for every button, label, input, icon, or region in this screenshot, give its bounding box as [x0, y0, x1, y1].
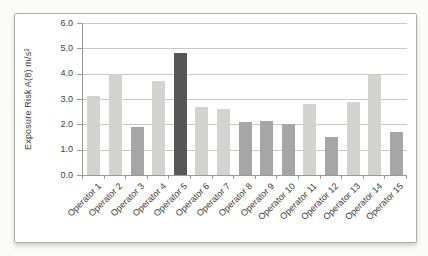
y-tick-label: 4.0	[47, 68, 73, 79]
bar-operator-2	[109, 74, 122, 175]
x-tick-mark	[341, 175, 342, 179]
bar-operator-15	[390, 132, 403, 175]
x-tick-mark	[104, 175, 105, 179]
y-tick-label: 3.0	[47, 94, 73, 105]
bar-operator-8	[239, 122, 252, 175]
y-tick-label: 1.0	[47, 144, 73, 155]
gridline	[83, 23, 407, 24]
bar-operator-7	[217, 109, 230, 175]
bar-operator-5	[174, 53, 187, 175]
x-tick-mark	[255, 175, 256, 179]
x-tick-mark	[212, 175, 213, 179]
y-tick-label: 2.0	[47, 119, 73, 130]
bar-operator-9	[260, 121, 273, 175]
x-tick-mark	[384, 175, 385, 179]
x-tick-mark	[125, 175, 126, 179]
bar-operator-1	[87, 96, 100, 175]
x-tick-mark	[190, 175, 191, 179]
x-tick-mark	[363, 175, 364, 179]
plot-area	[82, 23, 407, 176]
gridline	[83, 99, 407, 100]
gridline	[83, 48, 407, 49]
bar-operator-3	[131, 127, 144, 175]
x-tick-mark	[147, 175, 148, 179]
bar-operator-12	[325, 137, 338, 175]
x-tick-mark	[168, 175, 169, 179]
y-tick-label: 0.0	[47, 170, 73, 181]
bar-operator-14	[368, 75, 381, 175]
y-tick-label: 6.0	[47, 18, 73, 29]
bar-operator-4	[152, 81, 165, 175]
bar-chart: Exposure Risk A(8) m/s² 6.05.04.03.02.01…	[14, 13, 417, 243]
x-tick-mark	[233, 175, 234, 179]
bar-operator-10	[282, 124, 295, 175]
y-axis-title: Exposure Risk A(8) m/s²	[21, 23, 35, 175]
y-tick-label: 5.0	[47, 43, 73, 54]
x-tick-mark	[82, 175, 83, 179]
x-tick-mark	[276, 175, 277, 179]
bar-operator-13	[347, 102, 360, 175]
x-tick-mark	[320, 175, 321, 179]
x-tick-mark	[406, 175, 407, 179]
x-tick-mark	[298, 175, 299, 179]
bar-operator-6	[195, 107, 208, 175]
bar-operator-11	[303, 104, 316, 175]
gridline	[83, 74, 407, 75]
